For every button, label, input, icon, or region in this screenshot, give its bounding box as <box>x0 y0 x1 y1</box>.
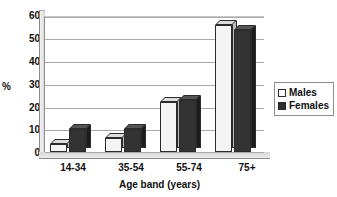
bar-group <box>209 16 264 152</box>
bar-females-35-54 <box>124 129 141 152</box>
bar-males-75+ <box>215 25 232 152</box>
y-tick-label: 50 <box>20 34 40 44</box>
chart-floor <box>39 152 270 159</box>
legend-label: Males <box>289 87 317 98</box>
bar-side <box>141 125 146 148</box>
x-axis-tick-labels: 14-34 35-54 55-74 75+ <box>44 162 275 176</box>
legend-item-females: Females <box>278 99 329 112</box>
y-tick-label: 0 <box>20 148 40 158</box>
bar-males-14-34 <box>50 144 67 152</box>
bar-chart: % 60 50 40 30 20 10 0 14-34 35-54 55-74 … <box>0 0 337 197</box>
bar-females-14-34 <box>69 129 86 152</box>
y-tick-label: 10 <box>20 125 40 135</box>
legend-label: Females <box>289 100 329 111</box>
bar-side <box>196 96 201 148</box>
y-tick-label: 60 <box>20 11 40 21</box>
bar-males-35-54 <box>105 138 122 152</box>
y-tick-label: 20 <box>20 103 40 113</box>
bar-group <box>99 16 154 152</box>
y-tick-label: 40 <box>20 57 40 67</box>
y-axis-title: % <box>2 82 11 92</box>
bar-side <box>251 26 256 148</box>
bar-group <box>154 16 209 152</box>
x-axis-title: Age band (years) <box>44 179 275 190</box>
bar-face <box>50 144 67 152</box>
bar-males-55-74 <box>160 102 177 152</box>
x-tick-label: 35-54 <box>102 162 160 174</box>
bar-face <box>179 100 196 152</box>
bar-face <box>69 129 86 152</box>
bar-face <box>234 30 251 152</box>
legend-swatch-females-icon <box>278 102 286 110</box>
chart-legend: Males Females <box>274 82 334 116</box>
bar-females-55-74 <box>179 100 196 152</box>
x-tick-label: 75+ <box>218 162 276 174</box>
bars-layer <box>44 16 264 152</box>
gridline <box>45 152 264 153</box>
bar-group <box>44 16 99 152</box>
bar-face <box>160 102 177 152</box>
y-tick-label: 30 <box>20 80 40 90</box>
bar-face <box>105 138 122 152</box>
bar-face <box>124 129 141 152</box>
x-tick-label: 14-34 <box>44 162 102 174</box>
bar-side <box>86 125 91 148</box>
y-axis-tick-labels: 60 50 40 30 20 10 0 <box>14 0 40 197</box>
legend-swatch-males-icon <box>278 89 286 97</box>
bar-females-75+ <box>234 30 251 152</box>
legend-item-males: Males <box>278 86 329 99</box>
x-tick-label: 55-74 <box>160 162 218 174</box>
bar-face <box>215 25 232 152</box>
